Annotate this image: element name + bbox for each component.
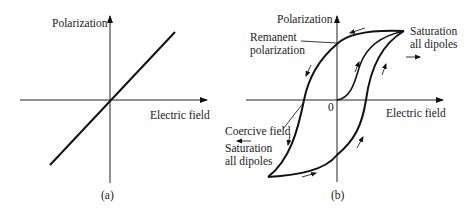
arrow-right-branch-up: [382, 64, 386, 75]
hysteresis-figure: Polarization Electric field (a) Polariza…: [0, 0, 472, 212]
y-axis-label-b: Polarization: [277, 13, 333, 25]
caption-b: (b): [331, 189, 345, 202]
x-axis-label-b: Electric field: [386, 107, 446, 119]
arrow-lower-right-up: [357, 137, 363, 148]
remanent-label-line2: polarization: [250, 44, 305, 57]
linear-polarization-line: [50, 32, 175, 165]
caption-a: (a): [101, 189, 114, 202]
initial-polarization-curve: [337, 31, 404, 100]
panel-b: Polarization Remanent polarization Satur…: [225, 13, 458, 202]
origin-label: 0: [328, 101, 334, 113]
remanent-leader-line: [301, 41, 337, 43]
panel-a: Polarization Electric field (a): [20, 16, 210, 202]
y-axis-label-a: Polarization: [52, 17, 108, 29]
remanent-label-line1: Remanent: [250, 31, 297, 43]
saturation-neg-label-line2: all dipoles: [225, 155, 273, 168]
saturation-pos-label-line2: all dipoles: [410, 38, 458, 51]
coercive-label: Coercive field: [225, 125, 291, 137]
arrow-bottom-right: [302, 173, 316, 177]
saturation-neg-label-line1: Saturation: [225, 142, 273, 154]
saturation-pos-label-line1: Saturation: [410, 25, 458, 37]
x-axis-label-a: Electric field: [150, 109, 210, 121]
arrow-upper-down: [306, 65, 311, 76]
